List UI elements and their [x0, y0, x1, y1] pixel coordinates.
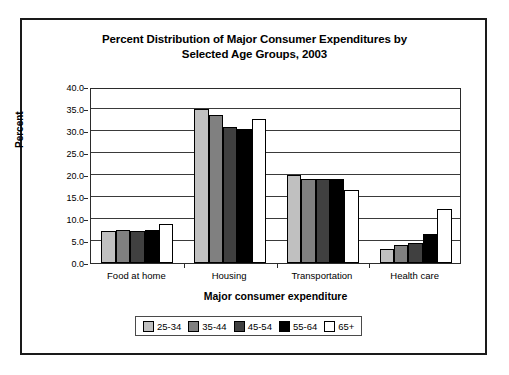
bar: [423, 234, 437, 263]
x-axis-title: Major consumer expenditure: [90, 290, 461, 302]
x-axis-tick-label: Food at home: [90, 270, 183, 281]
bar: [237, 129, 251, 263]
bar: [316, 179, 330, 263]
y-axis-tick-label: 5.0: [71, 237, 84, 247]
y-axis-tick-labels: 0.05.010.015.020.025.030.035.040.0: [48, 80, 88, 272]
chart-title-line-2: Selected Age Groups, 2003: [52, 47, 457, 62]
chart-title: Percent Distribution of Major Consumer E…: [52, 32, 457, 62]
bar: [223, 127, 237, 263]
legend-item[interactable]: 65+: [324, 321, 354, 332]
y-axis-tick-mark: [84, 264, 88, 265]
bar-group: [184, 89, 277, 263]
plot-area: [90, 88, 461, 264]
y-axis-tick-mark: [84, 198, 88, 199]
y-axis-tick-mark: [84, 132, 88, 133]
bar: [394, 245, 408, 263]
y-axis-tick-mark: [84, 154, 88, 155]
legend-item[interactable]: 25-34: [143, 321, 181, 332]
chart-title-line-1: Percent Distribution of Major Consumer E…: [52, 32, 457, 47]
y-axis-tick-label: 10.0: [66, 215, 84, 225]
y-axis-tick-mark: [84, 176, 88, 177]
bar: [101, 231, 115, 263]
bar: [380, 249, 394, 263]
y-axis-title: Percent: [14, 111, 25, 148]
legend-label: 55-64: [293, 321, 317, 332]
y-axis-tick-label: 35.0: [66, 105, 84, 115]
y-axis-tick-label: 30.0: [66, 127, 84, 137]
bar: [209, 115, 223, 263]
legend-swatch-icon: [234, 321, 245, 332]
legend-item[interactable]: 35-44: [188, 321, 226, 332]
bar: [145, 230, 159, 263]
legend-label: 65+: [338, 321, 354, 332]
legend-swatch-icon: [279, 321, 290, 332]
legend-item[interactable]: 55-64: [279, 321, 317, 332]
y-axis-tick-mark: [84, 242, 88, 243]
x-axis-tick-mark: [369, 263, 370, 268]
legend-label: 45-54: [248, 321, 272, 332]
legend-item[interactable]: 45-54: [234, 321, 272, 332]
x-axis-tick-mark: [277, 263, 278, 268]
legend-swatch-icon: [324, 321, 335, 332]
legend-label: 35-44: [202, 321, 226, 332]
bar-group: [369, 89, 462, 263]
bar: [408, 243, 422, 263]
bar: [330, 179, 344, 263]
bar: [130, 231, 144, 263]
legend-swatch-icon: [188, 321, 199, 332]
x-axis-tick-label: Transportation: [276, 270, 369, 281]
bar-group: [277, 89, 370, 263]
y-axis-tick-mark: [84, 88, 88, 89]
bar: [159, 224, 173, 263]
y-axis-tick-label: 20.0: [66, 171, 84, 181]
bar: [116, 230, 130, 263]
y-axis-tick-label: 40.0: [66, 83, 84, 93]
bar-group: [91, 89, 184, 263]
legend-swatch-icon: [143, 321, 154, 332]
y-axis-tick-label: 25.0: [66, 149, 84, 159]
bar: [301, 179, 315, 263]
chart-legend: 25-3435-4445-5455-6465+: [135, 316, 362, 336]
bar: [287, 175, 301, 263]
x-axis-tick-mark: [184, 263, 185, 268]
legend-label: 25-34: [157, 321, 181, 332]
chart-figure: Percent Distribution of Major Consumer E…: [20, 18, 487, 355]
bar: [194, 109, 208, 263]
y-axis-tick-label: 15.0: [66, 193, 84, 203]
x-axis-tick-label: Housing: [183, 270, 276, 281]
y-axis-tick-label: 0.0: [71, 259, 84, 269]
y-axis-tick-mark: [84, 110, 88, 111]
y-axis-tick-mark: [84, 220, 88, 221]
x-axis-tick-label: Health care: [368, 270, 461, 281]
x-axis-tick-labels: Food at homeHousingTransportationHealth …: [90, 270, 461, 286]
bar: [252, 119, 266, 263]
bar: [437, 209, 451, 263]
bar: [344, 190, 358, 263]
